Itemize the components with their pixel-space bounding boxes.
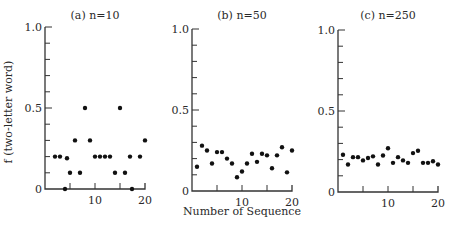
y-tick-label: 0: [35, 183, 42, 196]
data-point: [371, 154, 375, 158]
panel-a: (a) n=101.00.501020: [25, 9, 153, 207]
y-tick-label: 0: [182, 185, 189, 198]
panels: (a) n=101.00.501020(b) n=501.00.501020(c…: [25, 9, 446, 210]
data-point: [290, 148, 294, 152]
y-tick-label: 1.0: [172, 23, 190, 36]
figure: f (two-letter word) Number of Sequence (…: [0, 0, 453, 234]
data-point: [230, 161, 234, 165]
axes: [45, 27, 145, 189]
data-point: [65, 156, 69, 160]
x-tick-label: 10: [88, 194, 102, 207]
data-point: [346, 162, 350, 166]
data-point: [280, 145, 284, 149]
data-point: [200, 143, 204, 147]
data-point: [138, 154, 142, 158]
x-tick-label: 20: [285, 196, 299, 209]
data-point: [260, 152, 264, 156]
data-point: [376, 162, 380, 166]
y-tick-label: 0: [328, 186, 335, 199]
data-point: [381, 153, 385, 157]
panel-b: (b) n=501.00.501020: [172, 9, 300, 209]
data-point: [245, 161, 249, 165]
data-point: [118, 106, 122, 110]
data-point: [436, 162, 440, 166]
data-point: [128, 154, 132, 158]
y-tick-label: 1.0: [318, 24, 336, 37]
data-point: [53, 154, 57, 158]
data-point: [220, 150, 224, 154]
data-point: [341, 153, 345, 157]
data-point: [123, 171, 127, 175]
data-point: [83, 106, 87, 110]
x-tick-label: 20: [431, 197, 445, 210]
data-point: [68, 171, 72, 175]
data-point: [108, 154, 112, 158]
data-point: [275, 153, 279, 157]
data-point: [235, 175, 239, 179]
data-point: [406, 161, 410, 165]
data-point: [426, 161, 430, 165]
data-point: [361, 158, 365, 162]
data-point: [240, 169, 244, 173]
data-point: [431, 159, 435, 163]
data-point: [195, 165, 199, 169]
data-point: [225, 156, 229, 160]
data-point: [130, 187, 134, 191]
data-point: [63, 187, 67, 191]
data-point: [270, 166, 274, 170]
data-point: [113, 171, 117, 175]
data-point: [250, 152, 254, 156]
data-point: [255, 160, 259, 164]
data-point: [210, 161, 214, 165]
data-point: [73, 138, 77, 142]
data-point: [416, 148, 420, 152]
data-point: [386, 146, 390, 150]
data-point: [421, 161, 425, 165]
data-point: [285, 170, 289, 174]
panel-c: (c) n=2501.00.501020: [318, 9, 446, 210]
panel-title: (a) n=10: [71, 9, 120, 22]
x-tick-label: 10: [381, 197, 395, 210]
data-point: [143, 138, 147, 142]
data-point: [356, 155, 360, 159]
data-point: [58, 154, 62, 158]
data-point: [103, 154, 107, 158]
x-tick-label: 10: [235, 196, 249, 209]
data-point: [411, 151, 415, 155]
axes: [192, 29, 292, 191]
axes: [338, 30, 438, 192]
data-point: [93, 154, 97, 158]
data-point: [205, 148, 209, 152]
panel-title: (c) n=250: [360, 9, 416, 22]
data-point: [88, 138, 92, 142]
data-point: [78, 171, 82, 175]
y-tick-label: 1.0: [25, 21, 43, 34]
panel-title: (b) n=50: [217, 9, 266, 22]
y-tick-label: 0.5: [25, 102, 43, 115]
data-point: [391, 161, 395, 165]
x-tick-label: 20: [138, 194, 152, 207]
data-point: [351, 155, 355, 159]
data-point: [396, 155, 400, 159]
y-tick-label: 0.5: [318, 105, 336, 118]
data-point: [98, 154, 102, 158]
data-point: [265, 153, 269, 157]
data-point: [215, 150, 219, 154]
y-axis-title: f (two-letter word): [2, 61, 15, 164]
data-point: [366, 156, 370, 160]
y-tick-label: 0.5: [172, 104, 190, 117]
data-point: [401, 158, 405, 162]
